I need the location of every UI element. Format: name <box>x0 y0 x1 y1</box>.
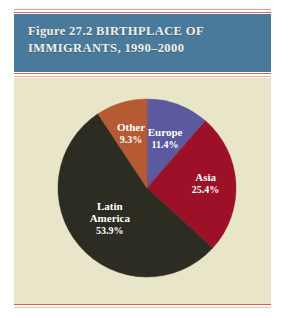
pie-label-asia: Asia <box>195 171 216 183</box>
rule-top-outer <box>14 9 271 10</box>
pie-value-other: 9.3% <box>120 134 143 145</box>
pie-label-latin-america: Latin <box>97 200 123 212</box>
rule-header-bottom-inner <box>14 73 271 74</box>
pie-value-europe: 11.4% <box>152 139 179 150</box>
rule-header-bottom-outer <box>14 76 271 77</box>
pie-label-europe: Europe <box>148 126 183 138</box>
chart-panel: Europe11.4%Asia25.4%LatinAmerica53.9%Oth… <box>14 78 271 304</box>
rule-bottom-inner <box>14 304 271 305</box>
figure-title-line-2: IMMIGRANTS, 1990–2000 <box>28 40 271 57</box>
figure-container: Figure 27.2 BIRTHPLACE OF IMMIGRANTS, 19… <box>0 0 285 318</box>
pie-label-other: Other <box>117 121 145 133</box>
pie-chart: Europe11.4%Asia25.4%LatinAmerica53.9%Oth… <box>57 97 237 279</box>
pie-value-latin-america: 53.9% <box>96 225 124 236</box>
pie-label-latin-america: America <box>90 212 131 224</box>
figure-title-line-1: Figure 27.2 BIRTHPLACE OF <box>28 23 271 40</box>
rule-bottom-outer <box>14 307 271 308</box>
figure-header-band: Figure 27.2 BIRTHPLACE OF IMMIGRANTS, 19… <box>14 14 271 72</box>
rule-top-inner <box>14 12 271 13</box>
pie-value-asia: 25.4% <box>192 184 220 195</box>
